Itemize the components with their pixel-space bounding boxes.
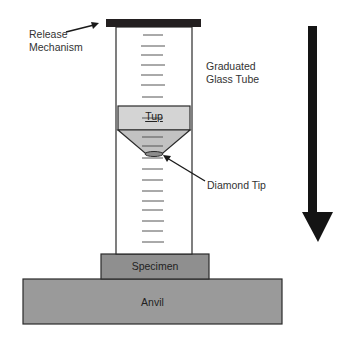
anvil-label: Anvil: [23, 296, 282, 308]
release-mechanism-bar: [106, 19, 201, 27]
release-mechanism-label: Release Mechanism: [29, 28, 83, 54]
release-label-line2: Mechanism: [29, 41, 83, 54]
release-label-line1: Release: [29, 28, 83, 41]
specimen-label: Specimen: [101, 260, 209, 272]
diamond-tip-label: Diamond Tip: [207, 179, 266, 192]
diamond-tip: [145, 152, 163, 157]
tup-label: Tup: [118, 110, 190, 122]
tube-label-line1: Graduated: [206, 60, 259, 73]
direction-down-arrow-icon: [302, 26, 333, 242]
glass-tube-label: Graduated Glass Tube: [206, 60, 259, 86]
tube-label-line2: Glass Tube: [206, 73, 259, 86]
